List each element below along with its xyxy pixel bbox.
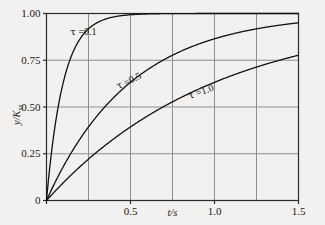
tick-marks [43,14,299,205]
x-tick-label-05: 0.5 [120,206,142,217]
x-tick-label-10: 1.0 [204,206,226,217]
tau-symbol-1: τ [70,26,76,37]
gridlines [47,14,299,201]
curve-label-tau-01: τ =0.1 [70,27,96,37]
y-axis-title: y/Kss [12,105,25,125]
y-axis-title-subscript: ss [16,105,25,111]
chart-plot [0,0,325,225]
y-tick-label-0: 0 [35,195,41,206]
y-tick-label-025: 0.25 [21,148,40,159]
y-tick-label-075: 0.75 [21,55,40,66]
x-axis-title: t/s [167,208,177,219]
tau-value-1: =0.1 [78,26,96,37]
y-axis-title-main: y/K [11,110,22,125]
figure-container: 0 0.25 0.50 0.75 1.00 0.5 1.0 1.5 y/Kss … [0,0,325,225]
y-tick-label-100: 1.00 [21,8,40,19]
x-tick-label-15: 1.5 [288,206,310,217]
